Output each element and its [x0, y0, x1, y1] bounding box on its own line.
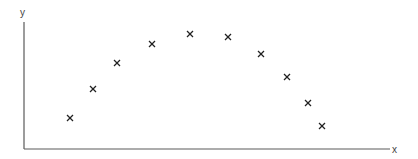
- data-point-marker: [284, 74, 290, 80]
- y-axis-label: y: [20, 7, 25, 18]
- data-point-marker: [225, 34, 231, 40]
- data-point-marker: [305, 100, 311, 106]
- data-point-marker: [187, 31, 193, 37]
- data-point-marker: [258, 51, 264, 57]
- data-point-marker: [319, 123, 325, 129]
- x-axis-label: x: [392, 144, 397, 155]
- data-point-marker: [67, 115, 73, 121]
- plot-area: y x: [0, 0, 418, 159]
- data-point-marker: [90, 86, 96, 92]
- data-point-marker: [149, 41, 155, 47]
- data-point-marker: [114, 60, 120, 66]
- scatter-chart: y x: [0, 0, 418, 159]
- data-markers: [67, 31, 325, 129]
